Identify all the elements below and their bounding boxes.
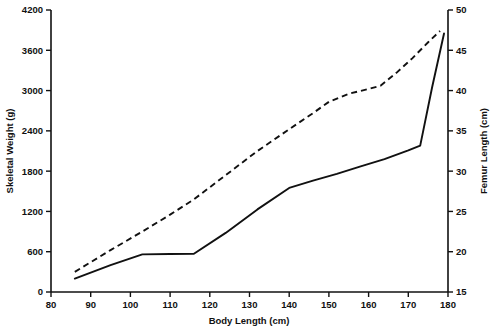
left-tick-label: 2400	[22, 125, 43, 136]
left-tick-label: 0	[38, 286, 43, 297]
x-axis-title: Body Length (cm)	[209, 315, 290, 326]
x-tick-label: 120	[202, 299, 218, 310]
chart-container: 0600120018002400300036004200 15202530354…	[0, 0, 498, 332]
x-tick-label: 140	[281, 299, 297, 310]
right-tick-label: 40	[456, 85, 467, 96]
right-tick-label: 30	[456, 166, 467, 177]
data-series-group	[75, 31, 444, 279]
x-tick-label: 170	[400, 299, 416, 310]
right-tick-label: 20	[456, 246, 467, 257]
x-tick-label: 150	[321, 299, 337, 310]
y-right-axis-title: Femur Length (cm)	[478, 108, 489, 194]
right-axis-tick-labels: 1520253035404550	[456, 4, 467, 297]
x-tick-label: 100	[122, 299, 138, 310]
x-tick-label: 160	[361, 299, 377, 310]
left-tick-label: 1800	[22, 166, 43, 177]
x-tick-label: 80	[46, 299, 57, 310]
right-tick-label: 50	[456, 4, 467, 15]
left-tick-label: 1200	[22, 206, 43, 217]
x-tick-label: 180	[440, 299, 456, 310]
series-femur-length-line	[75, 31, 440, 272]
left-tick-label: 3000	[22, 85, 43, 96]
right-tick-label: 25	[456, 206, 467, 217]
left-axis-tick-labels: 0600120018002400300036004200	[22, 4, 43, 297]
y-left-axis-title: Skeletal Weight (g)	[4, 109, 15, 194]
x-axis-tick-labels: 8090100110120130140150160170180	[46, 299, 456, 310]
left-tick-label: 4200	[22, 4, 43, 15]
right-tick-label: 45	[456, 45, 467, 56]
right-tick-label: 35	[456, 125, 467, 136]
x-tick-label: 110	[162, 299, 177, 310]
skeletal-weight-femur-length-chart: 0600120018002400300036004200 15202530354…	[0, 0, 498, 332]
series-skeletal-weight-line	[75, 34, 444, 279]
x-tick-label: 90	[85, 299, 96, 310]
left-tick-label: 600	[27, 246, 43, 257]
x-tick-label: 130	[242, 299, 258, 310]
right-tick-label: 15	[456, 286, 467, 297]
left-tick-label: 3600	[22, 45, 43, 56]
